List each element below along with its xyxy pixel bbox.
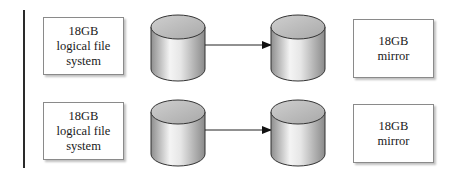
- box-label-line: 18GB: [378, 119, 410, 134]
- row-1: [151, 15, 325, 81]
- box-label-line: system: [57, 54, 111, 69]
- source-filesystem-box: 18GB logical file system: [43, 17, 124, 75]
- row-2: [151, 100, 325, 166]
- box-label-line: logical file: [57, 124, 111, 139]
- box-label-line: system: [57, 139, 111, 154]
- box-label-line: mirror: [378, 49, 410, 64]
- box-label-line: 18GB: [57, 109, 111, 124]
- mirror-box: 18GB mirror: [353, 104, 434, 163]
- mirror-box: 18GB mirror: [353, 19, 434, 78]
- cylinder-disk-icon: [271, 100, 325, 166]
- cylinder-disk-icon: [151, 15, 205, 81]
- box-label-line: mirror: [378, 134, 410, 149]
- box-label-line: 18GB: [57, 24, 111, 39]
- source-filesystem-box: 18GB logical file system: [43, 102, 124, 160]
- box-label-line: 18GB: [378, 34, 410, 49]
- cylinder-disk-icon: [271, 15, 325, 81]
- cylinder-disk-icon: [151, 100, 205, 166]
- box-label-line: logical file: [57, 39, 111, 54]
